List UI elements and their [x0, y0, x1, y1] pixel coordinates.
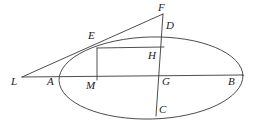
- point-label-D: D: [166, 20, 174, 31]
- point-label-M: M: [86, 80, 95, 91]
- point-label-H: H: [148, 50, 156, 61]
- point-label-L: L: [11, 76, 17, 87]
- point-label-B: B: [228, 76, 235, 87]
- segment-axis-L-B: [22, 75, 243, 77]
- point-label-G: G: [162, 76, 170, 87]
- point-label-C: C: [159, 104, 166, 115]
- geometry-canvas: [0, 0, 263, 132]
- point-label-A: A: [47, 76, 54, 87]
- point-label-E: E: [88, 30, 95, 41]
- segment-horizontal-E-D: [97, 47, 164, 48]
- point-label-F: F: [158, 2, 165, 13]
- segment-tangent-L-F: [22, 14, 163, 77]
- segment-chord-F-C: [156, 14, 163, 116]
- geometry-figure: L A M B E F D H G C: [0, 0, 263, 132]
